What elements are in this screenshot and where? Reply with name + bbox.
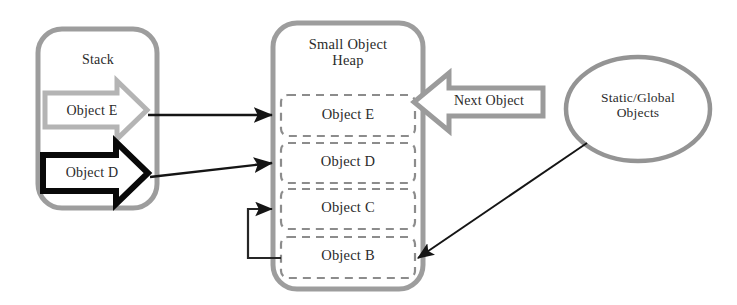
heap-slot-object-c [281, 189, 415, 229]
heap-slot-object-e [281, 95, 415, 136]
heap-slot-object-d [281, 143, 415, 183]
connector-stack-d-to-heap-d [150, 163, 272, 177]
static-global-objects-ellipse [566, 57, 710, 161]
heap-slot-object-b [281, 237, 415, 278]
diagram-graphics [0, 0, 737, 305]
diagram-canvas: Stack Small Object Heap Object E Object … [0, 0, 737, 305]
connector-static-global-to-heap-b [418, 143, 587, 258]
next-object-arrow [414, 73, 543, 131]
